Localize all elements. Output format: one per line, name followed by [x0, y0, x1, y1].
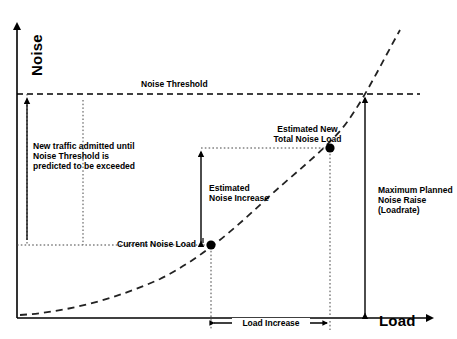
x-axis-label: Load: [379, 312, 416, 330]
estimated-noise-increase-line-1: Estimated: [209, 183, 269, 193]
y-axis-label: Noise: [28, 34, 46, 76]
estimated-noise-increase-label: Estimated Noise Increase: [209, 183, 269, 203]
current-noise-load-marker: [206, 240, 215, 249]
maximum-planned-line-2: Noise Raise: [378, 195, 453, 205]
load-increase-label: Load Increase: [232, 318, 310, 328]
maximum-planned-line-3: (Loadrate): [378, 205, 453, 215]
new-traffic-note: New traffic admitted until Noise Thresho…: [33, 141, 135, 171]
current-noise-load-label: Current Noise Load: [117, 239, 196, 249]
estimated-noise-increase-line-2: Noise Increase: [209, 193, 269, 203]
noise-load-diagram: Noise Load Noise Threshold New traffic a…: [0, 0, 457, 339]
noise-threshold-label: Noise Threshold: [141, 79, 208, 89]
estimated-new-total-noise-load-marker: [325, 143, 334, 152]
maximum-planned-line-1: Maximum Planned: [378, 185, 453, 195]
new-traffic-note-line-1: New traffic admitted until: [33, 141, 135, 151]
estimated-new-total-line-1: Estimated New: [255, 124, 360, 134]
new-traffic-note-line-3: predicted to be exceeded: [33, 161, 135, 171]
estimated-new-total-noise-load-label: Estimated New Total Noise Load: [255, 124, 360, 144]
estimated-new-total-line-2: Total Noise Load: [255, 134, 360, 144]
new-traffic-note-line-2: Noise Threshold is: [33, 151, 135, 161]
noise-load-curve: [20, 30, 400, 315]
maximum-planned-noise-raise-label: Maximum Planned Noise Raise (Loadrate): [378, 185, 453, 215]
